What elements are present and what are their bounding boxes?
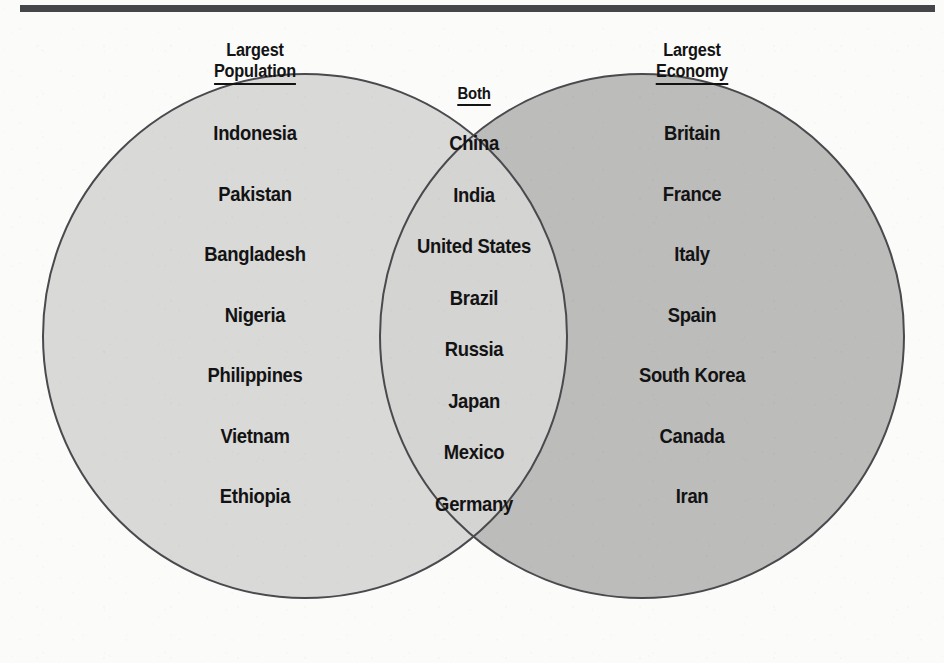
list-item[interactable]: South Korea [576,365,808,386]
venn-diagram-page: Largest Population Indonesia Pakistan Ba… [0,0,944,663]
list-item[interactable]: Spain [576,305,808,326]
list-item[interactable]: China [392,133,556,154]
list-item[interactable]: United States [392,236,556,257]
list-item[interactable]: Canada [576,426,808,447]
list-item[interactable]: Iran [576,486,808,507]
venn-overlap-column: Both China India United States Brazil Ru… [383,84,565,514]
top-rule-divider [20,5,935,12]
list-item[interactable]: Brazil [392,288,556,309]
list-item[interactable]: Germany [392,494,556,515]
list-item[interactable]: Ethiopia [139,486,371,507]
list-item[interactable]: Mexico [392,442,556,463]
list-item[interactable]: Italy [576,244,808,265]
left-title-line-1: Largest [135,40,375,61]
overlap-item-list: China India United States Brazil Russia … [383,133,565,514]
list-item[interactable]: Japan [392,391,556,412]
overlap-section-title: Both [389,84,558,106]
list-item[interactable]: Philippines [139,365,371,386]
right-title-line-2: Economy [656,61,728,85]
overlap-title-line-1: Both [457,84,490,106]
right-section-title: Largest Economy [572,40,812,85]
left-section-title: Largest Population [135,40,375,85]
list-item[interactable]: France [576,184,808,205]
right-title-line-1: Largest [572,40,812,61]
list-item[interactable]: Vietnam [139,426,371,447]
list-item[interactable]: Bangladesh [139,244,371,265]
list-item[interactable]: Pakistan [139,184,371,205]
left-item-list: Indonesia Pakistan Bangladesh Nigeria Ph… [126,123,384,507]
list-item[interactable]: India [392,185,556,206]
list-item[interactable]: Nigeria [139,305,371,326]
list-item[interactable]: Indonesia [139,123,371,144]
right-item-list: Britain France Italy Spain South Korea C… [563,123,821,507]
list-item[interactable]: Britain [576,123,808,144]
list-item[interactable]: Russia [392,339,556,360]
left-title-line-2: Population [214,61,296,85]
